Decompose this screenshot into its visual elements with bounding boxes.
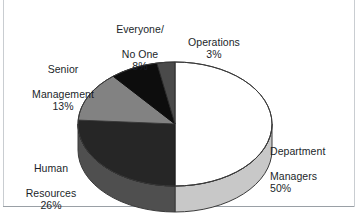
slice-label-human-line2: Resources [26,187,77,199]
slice-value-everyone: 8% [104,60,176,72]
pie-chart-figure: Everyone/ No One 8% Operations 3% Senior… [0,0,358,218]
slice-label-everyone-line2: No One [122,48,159,60]
slice-label-everyone-line1: Everyone/ [116,23,164,35]
slice-label-everyone-no-one: Everyone/ No One 8% [104,11,176,84]
slice-value-operations: 3% [178,48,250,60]
slice-label-senior-management: Senior Management 13% [17,51,109,124]
slice-label-human-resources: Human Resources 26% [9,150,93,218]
slice-value-human: 26% [9,199,93,211]
slice-label-operations: Operations 3% [178,24,250,73]
slice-label-human-line1: Human [34,162,68,174]
slice-label-senior-line1: Senior [48,63,79,75]
slice-value-department: 50% [270,182,356,194]
slice-label-department-line1: Department [270,145,325,157]
slice-label-department-line2: Managers [270,170,317,182]
slice-label-department-managers: Department Managers 50% [270,133,356,206]
slice-value-senior: 13% [17,100,109,112]
slice-label-operations-line1: Operations [188,36,240,48]
slice-label-senior-line2: Management [32,88,94,100]
